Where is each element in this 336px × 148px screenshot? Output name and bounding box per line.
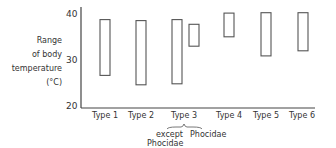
x-label-type-1: Type 1 bbox=[92, 111, 118, 120]
range-bar-phocidae bbox=[189, 24, 199, 46]
label-phocidae: Phocidae bbox=[190, 130, 226, 139]
range-bars bbox=[100, 13, 308, 85]
label-except-phocidae: Phocidae bbox=[147, 139, 183, 148]
x-label-type-2: Type 2 bbox=[128, 111, 154, 120]
y-label-line-4: (°C) bbox=[12, 76, 62, 90]
range-bar-type-1 bbox=[100, 20, 110, 76]
body-temperature-range-chart: Range of body temperature (°C) 40 30 20 … bbox=[0, 0, 336, 148]
y-label-line-2: of body bbox=[12, 48, 62, 62]
y-label-line-1: Range bbox=[12, 34, 62, 48]
y-tick-20: 20 bbox=[66, 101, 77, 111]
range-bar-type-4 bbox=[224, 13, 234, 37]
y-tick-30: 30 bbox=[66, 55, 77, 65]
x-label-type-4: Type 4 bbox=[216, 111, 242, 120]
type3-brace bbox=[167, 124, 202, 129]
range-bar-type-6 bbox=[298, 13, 308, 51]
y-axis-label: Range of body temperature (°C) bbox=[12, 34, 62, 90]
range-bar-type-5 bbox=[261, 13, 271, 56]
label-except: except bbox=[156, 130, 183, 139]
x-label-type-6: Type 6 bbox=[289, 111, 315, 120]
range-bar-except-phocidae bbox=[172, 20, 182, 84]
range-bar-type-2 bbox=[136, 21, 146, 85]
x-label-type-5: Type 5 bbox=[253, 111, 279, 120]
y-tick-40: 40 bbox=[66, 9, 77, 19]
y-label-line-3: temperature bbox=[12, 62, 62, 76]
x-label-type-3: Type 3 bbox=[171, 111, 197, 120]
